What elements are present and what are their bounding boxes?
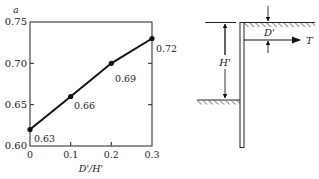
x-tick-label: 0.3: [144, 149, 159, 160]
point-label: 0.63: [34, 133, 55, 144]
data-points: [27, 36, 154, 132]
y-ticks: [30, 63, 152, 104]
x-tick-label: 0.1: [63, 149, 78, 160]
height-label: H': [218, 57, 230, 68]
dredge-line-hatch: [197, 101, 240, 105]
force-label: T: [306, 35, 314, 46]
y-axis-label: a: [13, 5, 18, 15]
point-label: 0.72: [156, 43, 177, 54]
y-tick-label: 0.60: [5, 140, 27, 151]
sheet-pile-wall: [240, 23, 244, 148]
point-label: 0.66: [74, 100, 95, 111]
x-ticks: [71, 142, 112, 146]
chart: 0.75 0.70 0.65 0.60 a 0 0.1 0.2 0.3 D'/H…: [5, 5, 177, 174]
figure: 0.75 0.70 0.65 0.60 a 0 0.1 0.2 0.3 D'/H…: [0, 0, 319, 179]
y-tick-label: 0.75: [5, 16, 27, 27]
x-tick-label: 0: [27, 149, 33, 160]
y-tick-label: 0.65: [5, 99, 27, 110]
x-axis-label: D'/H': [78, 163, 103, 174]
ground-surface-hatch: [244, 23, 315, 27]
y-tick-label: 0.70: [5, 58, 27, 69]
sheet-pile-diagram: H' D' T: [197, 6, 315, 148]
data-series-line: [30, 39, 152, 130]
point-label: 0.69: [115, 73, 136, 84]
depth-label: D': [263, 27, 275, 38]
plot-frame: [30, 22, 152, 146]
x-tick-label: 0.2: [104, 149, 119, 160]
